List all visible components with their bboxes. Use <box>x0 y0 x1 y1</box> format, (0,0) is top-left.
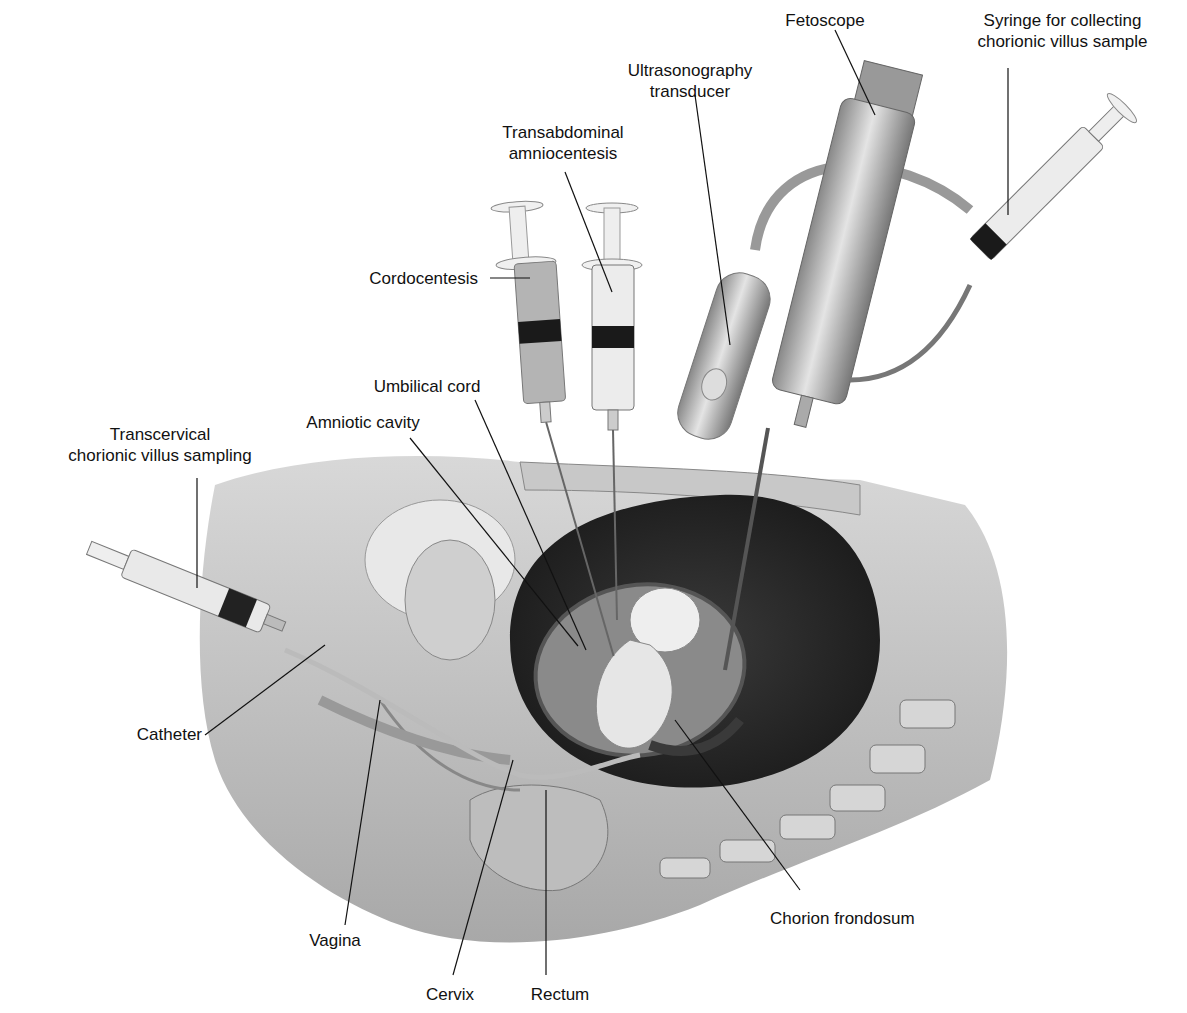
label-cervix: Cervix <box>410 984 490 1005</box>
ultrasound-transducer <box>672 267 777 446</box>
label-vagina: Vagina <box>295 930 375 951</box>
label-umbilical-cord: Umbilical cord <box>352 376 502 397</box>
label-transcervical-cvs: Transcervical chorionic villus sampling <box>60 424 260 466</box>
label-chorion-frondosum: Chorion frondosum <box>770 908 970 929</box>
uterus <box>510 495 880 788</box>
label-catheter: Catheter <box>100 724 202 745</box>
label-amniotic-cavity: Amniotic cavity <box>288 412 438 433</box>
label-ultrasonography-transducer: Ultrasonography transducer <box>615 60 765 102</box>
label-transabdominal-amniocentesis: Transabdominal amniocentesis <box>488 122 638 164</box>
label-syringe-cvs: Syringe for collecting chorionic villus … <box>945 10 1180 52</box>
label-cordocentesis: Cordocentesis <box>330 268 478 289</box>
label-rectum: Rectum <box>520 984 600 1005</box>
cvs-syringe <box>966 90 1139 263</box>
label-fetoscope: Fetoscope <box>760 10 890 31</box>
fetoscope <box>763 58 926 435</box>
